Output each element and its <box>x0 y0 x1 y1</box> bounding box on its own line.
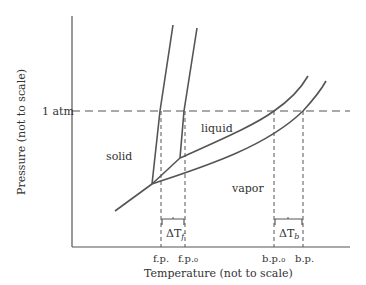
solvent-vaporization-curve <box>180 76 308 158</box>
region-vapor-label: vapor <box>231 182 264 195</box>
x-axis-title: Temperature (not to scale) <box>144 267 293 280</box>
tick-fp-label: f.p. <box>153 253 169 264</box>
delta-tf-label: ΔTf <box>166 227 186 241</box>
sublimation-curve <box>115 184 152 211</box>
y-axis-title: Pressure (not to scale) <box>15 69 28 195</box>
region-solid-label: solid <box>106 150 132 163</box>
tick-fp0-label: f.p.₀ <box>178 253 198 264</box>
tick-bp0-label: b.p.₀ <box>262 253 285 264</box>
phase-diagram: 1 atm solid liquid vapor ΔTf ΔTb f.p. f.… <box>0 0 366 285</box>
one-atm-label: 1 atm <box>42 105 74 118</box>
solvent-melting-curve <box>180 28 197 158</box>
solution-melting-curve <box>152 25 173 184</box>
solution-vaporization-curve <box>152 81 326 184</box>
tick-bp-label: b.p. <box>295 253 314 264</box>
delta-tb-label: ΔTb <box>279 227 299 241</box>
delta-tf-bracket <box>162 219 184 225</box>
region-liquid-label: liquid <box>201 122 233 135</box>
delta-tb-bracket <box>275 219 302 225</box>
